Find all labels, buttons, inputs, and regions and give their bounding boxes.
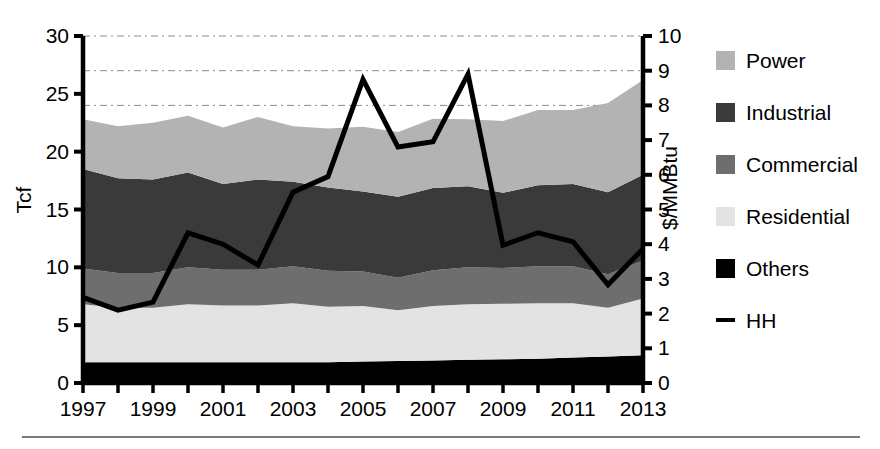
legend-item-label: Industrial xyxy=(746,102,831,123)
y-axis-right-tick-label: 0 xyxy=(658,371,670,394)
legend-item-residential[interactable]: Residential xyxy=(716,190,876,242)
y-axis-right-tick-label: 4 xyxy=(658,232,670,255)
y-axis-left-title: Tcf xyxy=(12,170,36,230)
legend-swatch xyxy=(716,51,735,70)
legend-item-label: HH xyxy=(746,310,776,331)
legend-swatch xyxy=(716,259,735,278)
y-axis-right-tick-label: 9 xyxy=(658,59,670,82)
legend-item-power[interactable]: Power xyxy=(716,34,876,86)
y-axis-right-tick-label: 1 xyxy=(658,336,670,359)
y-axis-right-tick-label: 3 xyxy=(658,267,670,290)
y-axis-right-title: $/MMBtu xyxy=(658,170,682,230)
chart-legend: PowerIndustrialCommercialResidentialOthe… xyxy=(716,34,876,346)
legend-item-hh[interactable]: HH xyxy=(716,294,876,346)
legend-item-industrial[interactable]: Industrial xyxy=(716,86,876,138)
legend-item-commercial[interactable]: Commercial xyxy=(716,138,876,190)
legend-item-label: Others xyxy=(746,258,809,279)
chart-figure: 051015202530 012345678910 19971999200120… xyxy=(0,0,880,449)
y-axis-left: 051015202530 xyxy=(46,24,83,394)
y-axis-left-tick-label: 30 xyxy=(46,24,69,47)
x-axis-tick-label: 1999 xyxy=(130,397,177,420)
gridlines xyxy=(83,36,643,105)
legend-swatch xyxy=(716,155,735,174)
legend-item-others[interactable]: Others xyxy=(716,242,876,294)
legend-line-marker xyxy=(716,318,735,322)
legend-swatch xyxy=(716,103,735,122)
y-axis-left-tick-label: 0 xyxy=(57,371,69,394)
stacked-areas xyxy=(83,80,643,383)
legend-item-label: Commercial xyxy=(746,154,858,175)
legend-item-label: Power xyxy=(746,50,806,71)
x-axis-tick-label: 2005 xyxy=(340,397,387,420)
x-axis: 199719992001200320052007200920112013 xyxy=(60,383,667,420)
legend-swatch xyxy=(716,207,735,226)
x-axis-tick-label: 2011 xyxy=(550,397,595,420)
x-axis-tick-label: 2003 xyxy=(270,397,317,420)
x-axis-tick-label: 1997 xyxy=(60,397,107,420)
y-axis-left-tick-label: 5 xyxy=(57,313,69,336)
x-axis-tick-label: 2013 xyxy=(620,397,667,420)
y-axis-left-tick-label: 20 xyxy=(46,140,69,163)
y-axis-right-tick-label: 10 xyxy=(658,24,681,47)
y-axis-left-tick-label: 25 xyxy=(46,82,69,105)
area-residential xyxy=(83,299,643,363)
legend-item-label: Residential xyxy=(746,206,850,227)
y-axis-right-tick-label: 8 xyxy=(658,93,670,116)
x-axis-tick-label: 2007 xyxy=(410,397,457,420)
bottom-divider xyxy=(22,436,860,438)
y-axis-right-tick-label: 2 xyxy=(658,302,670,325)
x-axis-tick-label: 2009 xyxy=(480,397,527,420)
y-axis-left-tick-label: 10 xyxy=(46,255,69,278)
x-axis-tick-label: 2001 xyxy=(200,397,247,420)
y-axis-left-tick-label: 15 xyxy=(46,198,69,221)
